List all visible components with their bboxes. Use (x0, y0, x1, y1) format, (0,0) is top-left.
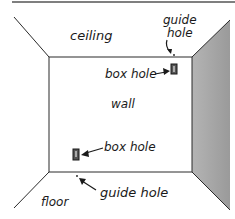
wall-label: wall (111, 97, 136, 111)
guide-hole-top-arrowhead (167, 49, 172, 54)
guide-hole-top-label-2: hole (167, 26, 193, 40)
box-hole-top-label: box hole (105, 67, 157, 81)
room-diagram: ceiling guide hole box hole wall box hol… (0, 0, 235, 219)
box-hole-top-icon-inner (173, 66, 175, 72)
guide-hole-bottom-arrow (82, 181, 96, 190)
floor-label: floor (41, 195, 69, 209)
ceiling-label: ceiling (70, 28, 112, 43)
guide-hole-bottom-arrowhead (79, 178, 86, 185)
box-hole-top-arrowhead (163, 68, 170, 75)
side-wall-shaded (192, 20, 230, 210)
box-hole-bottom-icon-inner (75, 151, 77, 157)
box-hole-bottom-arrow (86, 148, 103, 153)
guide-hole-top-label-1: guide (163, 13, 197, 27)
ceiling-left-edge (14, 17, 49, 57)
guide-hole-bottom-dot (76, 175, 78, 177)
guide-hole-top-dot (173, 54, 175, 56)
guide-hole-bottom-label: guide hole (100, 185, 168, 200)
box-hole-bottom-arrowhead (81, 150, 89, 157)
box-hole-bottom-label: box hole (104, 140, 156, 154)
